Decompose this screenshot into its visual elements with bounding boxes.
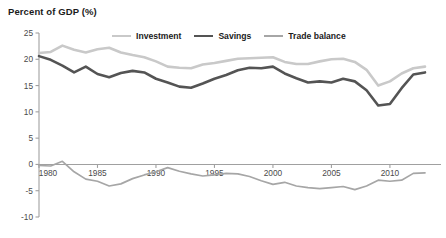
y-tick-label--10: -10: [21, 212, 33, 222]
y-tick-label-0: 0: [28, 159, 33, 169]
chart-plot-area: 2520151050-5-101980198519901995200020052…: [0, 0, 446, 238]
chart-container: Percent of GDP (%) Investment Savings Tr…: [0, 0, 446, 238]
x-tick-label-2005: 2005: [322, 168, 341, 178]
x-tick-label-2010: 2010: [381, 168, 400, 178]
y-tick-label-20: 20: [24, 54, 34, 64]
x-tick-label-1985: 1985: [88, 168, 107, 178]
x-tick-label-1980: 1980: [39, 168, 58, 178]
y-tick-label-25: 25: [24, 28, 34, 38]
series-line-investment: [39, 46, 425, 86]
y-tick-label--5: -5: [26, 186, 34, 196]
x-tick-label-2000: 2000: [264, 168, 283, 178]
y-tick-label-5: 5: [28, 133, 33, 143]
y-tick-label-10: 10: [24, 107, 34, 117]
y-tick-label-15: 15: [24, 81, 34, 91]
series-line-savings: [39, 56, 425, 105]
